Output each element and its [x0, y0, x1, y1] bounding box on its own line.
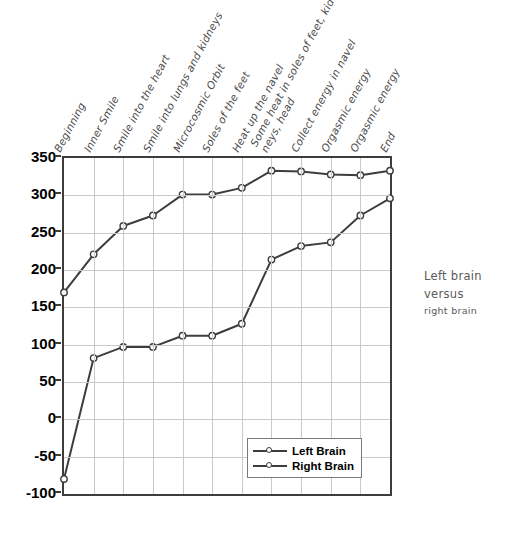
- y-axis: -100-50050100150200250300350: [6, 156, 56, 496]
- y-axis-tick-mark: [55, 267, 61, 269]
- legend-item: Right Brain: [253, 458, 354, 473]
- data-point-marker: [387, 167, 393, 173]
- gridline-vertical: [212, 158, 213, 494]
- data-point-marker: [61, 476, 67, 482]
- gridline-horizontal: [64, 233, 390, 234]
- legend-marker-icon: [253, 460, 287, 471]
- x-axis-labels: BeginningInner SmileSmile into the heart…: [62, 0, 402, 156]
- gridline-horizontal: [64, 382, 390, 383]
- gridline-vertical: [94, 158, 95, 494]
- y-axis-tick-mark: [55, 379, 61, 381]
- y-axis-tick-label: 50: [10, 373, 56, 388]
- y-axis-tick-label: 0: [10, 410, 56, 425]
- y-axis-tick-label: 150: [10, 298, 56, 313]
- legend-item-label: Left Brain: [292, 445, 346, 457]
- gridline-vertical: [183, 158, 184, 494]
- y-axis-tick-mark: [55, 155, 61, 157]
- y-axis-tick-label: -50: [10, 448, 56, 463]
- legend-item-label: Right Brain: [292, 460, 354, 472]
- y-axis-tick-mark: [55, 192, 61, 194]
- gridline-horizontal: [64, 345, 390, 346]
- data-point-marker: [61, 289, 67, 295]
- chart-figure: BeginningInner SmileSmile into the heart…: [0, 0, 511, 534]
- gridline-horizontal: [64, 270, 390, 271]
- gridline-horizontal: [64, 419, 390, 420]
- y-axis-tick-label: 250: [10, 224, 56, 239]
- y-axis-tick-label: 200: [10, 261, 56, 276]
- gridline-vertical: [123, 158, 124, 494]
- y-axis-tick-mark: [55, 304, 61, 306]
- series-line: [64, 198, 390, 479]
- y-axis-tick-label: 350: [10, 149, 56, 164]
- x-axis-tick-label: End: [377, 130, 397, 154]
- caption-line-1: Left brain versus: [424, 269, 482, 301]
- gridline-vertical: [153, 158, 154, 494]
- gridline-vertical: [242, 158, 243, 494]
- x-axis-tick-label-line: Some heat in soles of feet, kid-: [248, 0, 338, 148]
- legend-marker-icon: [253, 445, 287, 456]
- figure-caption: Left brain versus right brain: [424, 268, 510, 318]
- y-axis-tick-mark: [55, 230, 61, 232]
- y-axis-tick-label: 100: [10, 336, 56, 351]
- y-axis-tick-label: 300: [10, 186, 56, 201]
- gridline-horizontal: [64, 307, 390, 308]
- gridline-horizontal: [64, 195, 390, 196]
- y-axis-tick-mark: [55, 416, 61, 418]
- x-axis-tick-label-line: End: [377, 130, 397, 154]
- legend-item: Left Brain: [253, 443, 354, 458]
- y-axis-tick-label: -100: [10, 485, 56, 500]
- y-axis-tick-mark: [55, 491, 61, 493]
- chart-legend: Left BrainRight Brain: [247, 438, 362, 478]
- y-axis-tick-mark: [55, 342, 61, 344]
- y-axis-tick-mark: [55, 454, 61, 456]
- caption-line-2: right brain: [424, 305, 477, 316]
- series-line: [64, 171, 390, 293]
